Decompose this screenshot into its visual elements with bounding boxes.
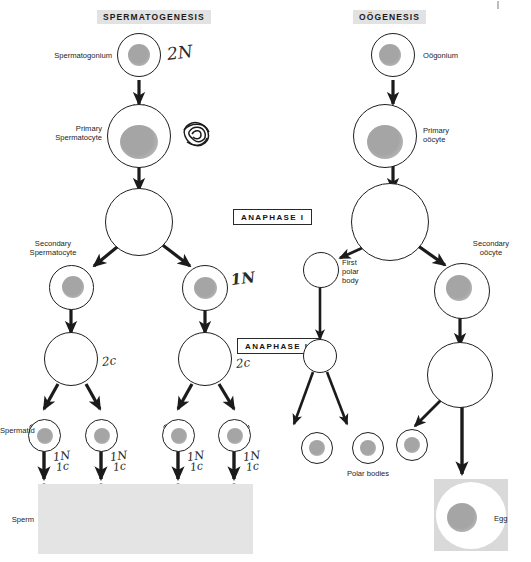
cell-anaphase-ii-left xyxy=(44,332,98,386)
page-edge-mark xyxy=(497,1,499,9)
nucleus-polar-body-2 xyxy=(360,440,376,456)
nucleus-egg xyxy=(447,503,477,532)
label-egg: Egg xyxy=(494,514,524,523)
nucleus-spermatid-1 xyxy=(37,428,53,444)
label-secondary-oocyte: Secondary oöcyte xyxy=(452,239,530,257)
nucleus-secondary-oocyte xyxy=(446,275,472,301)
label-spermatid: Spermatid xyxy=(0,426,26,435)
nucleus-spermatid-4 xyxy=(227,428,243,444)
header-oogenesis: OÖGENESIS xyxy=(353,10,426,24)
label-polar-bodies: Polar bodies xyxy=(323,469,413,478)
nucleus-primary-oocyte xyxy=(367,125,403,159)
annotation-2n-spermatogonium: 2N xyxy=(166,41,194,64)
nucleus-second-polar-body xyxy=(404,437,420,453)
label-primary-spermatocyte: Primary Spermatocyte xyxy=(28,124,102,142)
label-spermatogonium: Spermatogonium xyxy=(20,51,112,60)
annotation-1n-secondary-spermatocyte: 1N xyxy=(230,268,256,289)
nucleus-oogonium xyxy=(379,44,401,66)
annotation-2c-anaphase-ii-right: 2c xyxy=(235,355,251,371)
cell-anaphase-i-oocyte xyxy=(351,183,429,261)
cell-dividing-polar-body xyxy=(303,339,337,373)
cell-anaphase-i-spermatocyte xyxy=(105,188,173,256)
header-spermatogenesis: SPERMATOGENESIS xyxy=(97,10,211,24)
nucleus-secondary-spermatocyte-left xyxy=(62,276,84,298)
label-primary-oocyte: Primary oöcyte xyxy=(423,126,493,144)
sperm-background-panel xyxy=(38,484,253,554)
annotation-1c-spermatid-4: 1c xyxy=(245,459,260,474)
nucleus-polar-body-1 xyxy=(309,440,325,456)
annotation-2c-anaphase-ii-left: 2c xyxy=(101,353,117,369)
annotation-1c-spermatid-1: 1c xyxy=(55,459,70,474)
annotation-1c-spermatid-3: 1c xyxy=(189,459,204,474)
nucleus-primary-spermatocyte xyxy=(120,125,158,159)
nucleus-spermatogonium xyxy=(128,44,150,66)
label-oogonium: Oögonium xyxy=(423,51,513,60)
nucleus-spermatid-3 xyxy=(171,428,187,444)
cell-oocyte-second-division xyxy=(427,342,493,408)
label-sperm: Sperm xyxy=(0,515,34,524)
nucleus-secondary-spermatocyte-right xyxy=(194,277,217,299)
label-secondary-spermatocyte: Secondary Spermatocyte xyxy=(8,239,98,257)
cell-anaphase-ii-right xyxy=(178,332,232,386)
nucleus-spermatid-2 xyxy=(94,428,110,444)
cell-first-polar-body xyxy=(303,252,339,288)
label-first-polar-body: First polar body xyxy=(342,258,382,286)
meiosis-diagram: SPERMATOGENESIS OÖGENESIS ANAPHASE I ANA… xyxy=(0,0,531,562)
phase-box-anaphase-i: ANAPHASE I xyxy=(233,209,312,225)
annotation-1c-spermatid-2: 1c xyxy=(112,459,127,474)
